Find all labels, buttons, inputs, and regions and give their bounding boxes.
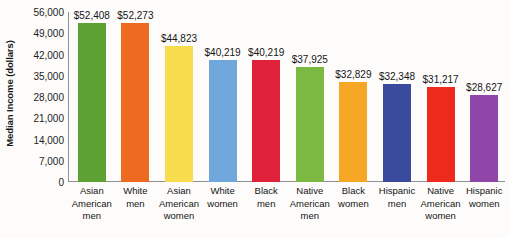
median-income-bar-chart: Median Income (dollars) 56,00049,00042,0… <box>0 0 509 238</box>
x-axis-label-line: White <box>114 185 158 198</box>
bar <box>296 67 324 182</box>
y-axis-tick: 56,000 <box>33 7 64 18</box>
x-axis-category-label: Whitemen <box>114 185 158 210</box>
bar-slot: $28,627 <box>462 12 506 182</box>
x-axis-category-label: Blackwomen <box>332 185 376 210</box>
x-axis-category-label: NativeAmericanmen <box>288 185 332 223</box>
bar-value-label: $40,219 <box>205 47 241 58</box>
x-axis-category-label: AsianAmericanmen <box>70 185 114 223</box>
x-axis-label-line: Hispanic <box>462 185 506 198</box>
bar-value-label: $40,219 <box>248 47 284 58</box>
x-axis-label-line: men <box>244 198 288 211</box>
y-axis-tick: 14,000 <box>33 134 64 145</box>
x-axis-label-line: women <box>201 198 245 211</box>
bar <box>339 82 367 182</box>
x-axis-label-line: women <box>419 210 463 223</box>
x-axis-label-line: Hispanic <box>375 185 419 198</box>
bar-series: $52,408$52,273$44,823$40,219$40,219$37,9… <box>70 12 506 182</box>
y-axis-tick: 0 <box>58 177 64 188</box>
x-axis-category-label: Blackmen <box>244 185 288 210</box>
x-axis-label-line: Black <box>332 185 376 198</box>
bar-value-label: $52,408 <box>74 10 110 21</box>
x-axis-label-line: Native <box>419 185 463 198</box>
x-axis-label-line: men <box>114 198 158 211</box>
bar-value-label: $31,217 <box>423 74 459 85</box>
y-axis-title-label: Median Income (dollars) <box>4 40 15 146</box>
x-axis-category-label: AsianAmericanwomen <box>157 185 201 223</box>
y-axis-tick: 42,000 <box>33 49 64 60</box>
bar <box>165 46 193 182</box>
bar-value-label: $32,829 <box>335 69 371 80</box>
bar <box>209 60 237 182</box>
bar-slot: $52,408 <box>70 12 114 182</box>
bar-slot: $32,348 <box>375 12 419 182</box>
bar-slot: $52,273 <box>114 12 158 182</box>
y-axis-tick-labels: 56,00049,00042,00035,00028,00021,00014,0… <box>18 0 64 194</box>
x-axis-category-label: Hispanicmen <box>375 185 419 210</box>
y-axis-tick: 7,000 <box>39 155 64 166</box>
x-axis-label-line: White <box>201 185 245 198</box>
bar-slot: $31,217 <box>419 12 463 182</box>
bar-value-label: $44,823 <box>161 33 197 44</box>
x-axis-category-label: Whitewomen <box>201 185 245 210</box>
x-axis-category-label: Hispanicwomen <box>462 185 506 210</box>
y-axis-title: Median Income (dollars) <box>0 0 18 186</box>
y-axis-tick: 35,000 <box>33 70 64 81</box>
x-axis-label-line: American <box>70 198 114 211</box>
bar-value-label: $32,348 <box>379 71 415 82</box>
x-axis-label-line: men <box>375 198 419 211</box>
x-axis-label-line: Asian <box>70 185 114 198</box>
bar <box>470 95 498 182</box>
bar <box>383 84 411 182</box>
x-axis-category-labels: AsianAmericanmenWhitemenAsianAmericanwom… <box>70 185 506 238</box>
bar-slot: $40,219 <box>201 12 245 182</box>
bar <box>427 87 455 182</box>
x-axis-label-line: American <box>288 198 332 211</box>
x-axis-label-line: American <box>419 198 463 211</box>
x-axis-category-label: NativeAmericanwomen <box>419 185 463 223</box>
x-axis-label-line: men <box>288 210 332 223</box>
y-axis-tick: 21,000 <box>33 113 64 124</box>
bar-value-label: $28,627 <box>466 82 502 93</box>
x-axis-label-line: men <box>70 210 114 223</box>
bar-slot: $37,925 <box>288 12 332 182</box>
bar-slot: $40,219 <box>244 12 288 182</box>
x-axis-label-line: Asian <box>157 185 201 198</box>
bar <box>252 60 280 182</box>
x-axis-label-line: Native <box>288 185 332 198</box>
bar-value-label: $52,273 <box>117 10 153 21</box>
y-axis-tick: 28,000 <box>33 92 64 103</box>
y-axis-tick: 49,000 <box>33 28 64 39</box>
bar-slot: $44,823 <box>157 12 201 182</box>
x-axis-label-line: women <box>332 198 376 211</box>
bar-value-label: $37,925 <box>292 54 328 65</box>
bar <box>78 23 106 182</box>
bar <box>121 23 149 182</box>
x-axis-label-line: American <box>157 198 201 211</box>
bar-slot: $32,829 <box>332 12 376 182</box>
x-axis-label-line: women <box>157 210 201 223</box>
x-axis-label-line: women <box>462 198 506 211</box>
x-axis-label-line: Black <box>244 185 288 198</box>
